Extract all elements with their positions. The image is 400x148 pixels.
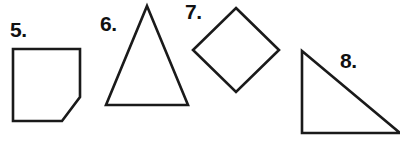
shape-7-diamond <box>193 8 279 92</box>
figure-label-6: 6. <box>100 13 117 34</box>
figure-label-8: 8. <box>340 50 357 71</box>
figure-label-5: 5. <box>10 19 27 40</box>
worksheet-canvas: 5. 6. 7. 8. <box>0 0 400 148</box>
shape-6-triangle <box>106 6 188 105</box>
shape-5-pentagon <box>13 49 80 121</box>
figure-label-7: 7. <box>185 1 202 22</box>
